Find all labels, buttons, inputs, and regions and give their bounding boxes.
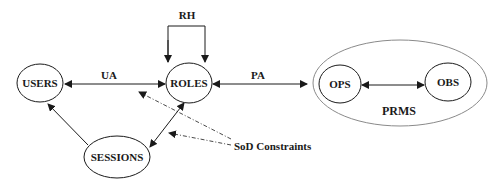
ua-label: UA [101, 69, 117, 81]
sessions-node: SESSIONS [84, 136, 150, 178]
sessions-users-edge [48, 104, 88, 145]
pa-label: PA [251, 69, 265, 81]
prms-label: PRMS [382, 104, 416, 118]
rh-edge: RH [168, 9, 205, 62]
roles-sessions-edge [150, 103, 184, 147]
pa-edge: PA [213, 69, 307, 84]
obs-label: OBS [437, 76, 459, 88]
rh-label: RH [179, 9, 196, 21]
users-label: USERS [22, 77, 57, 89]
sessions-label: SESSIONS [91, 151, 144, 163]
sod-arrows: SoD Constraints [139, 92, 312, 152]
rbac-diagram: PRMS USERS ROLES SESSIONS OPS OBS UA PA [0, 0, 500, 191]
obs-node: OBS [425, 63, 471, 101]
ops-label: OPS [329, 78, 350, 90]
ops-node: OPS [319, 65, 361, 103]
users-node: USERS [17, 64, 63, 102]
ua-edge: UA [65, 69, 165, 84]
sod-label: SoD Constraints [234, 140, 312, 152]
roles-node: ROLES [166, 63, 212, 103]
roles-label: ROLES [170, 77, 207, 89]
